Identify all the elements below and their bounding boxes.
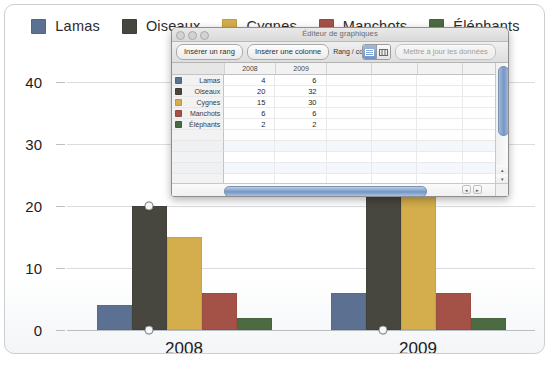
table-cell[interactable]: 6 xyxy=(224,108,275,119)
table-row-empty[interactable] xyxy=(172,141,508,152)
insert-row-button[interactable]: Insérer un rang xyxy=(176,44,243,60)
rows-grid-icon[interactable] xyxy=(363,45,376,59)
chart-data-editor-window[interactable]: Éditeur de graphiques Insérer un rang In… xyxy=(171,27,509,197)
table-cell[interactable] xyxy=(224,196,275,197)
table-row-empty[interactable] xyxy=(172,130,508,141)
scroll-up-arrow[interactable]: ▴ xyxy=(496,165,509,174)
editor-titlebar[interactable]: Éditeur de graphiques xyxy=(172,28,508,42)
table-cell[interactable] xyxy=(327,86,372,97)
table-cell[interactable] xyxy=(372,108,417,119)
table-cell[interactable]: 15 xyxy=(224,97,275,108)
selection-handle[interactable] xyxy=(145,326,154,335)
table-cell[interactable] xyxy=(275,141,326,152)
row-header[interactable] xyxy=(172,141,224,152)
row-header[interactable]: Manchots xyxy=(172,108,224,119)
vertical-scroll-thumb[interactable] xyxy=(498,66,509,136)
table-row-empty[interactable] xyxy=(172,163,508,174)
table-cell[interactable]: 2 xyxy=(224,119,275,130)
table-cell[interactable] xyxy=(372,86,417,97)
column-header[interactable] xyxy=(327,63,372,74)
table-cell[interactable] xyxy=(417,163,462,174)
table-cell[interactable] xyxy=(417,75,462,86)
row-header[interactable]: Éléphants xyxy=(172,119,224,130)
table-cell[interactable]: 32 xyxy=(275,86,326,97)
table-cell[interactable] xyxy=(224,163,275,174)
table-row-empty[interactable] xyxy=(172,196,508,197)
table-row-empty[interactable] xyxy=(172,152,508,163)
table-cell[interactable] xyxy=(327,108,372,119)
rows-columns-toggle[interactable] xyxy=(362,44,391,60)
bar[interactable] xyxy=(132,206,167,330)
table-cell[interactable] xyxy=(275,196,326,197)
bar[interactable] xyxy=(237,318,272,330)
scroll-down-arrow[interactable]: ▾ xyxy=(496,174,509,183)
bar[interactable] xyxy=(471,318,506,330)
table-cell[interactable]: 6 xyxy=(275,108,326,119)
bar[interactable] xyxy=(436,293,471,330)
table-cell[interactable] xyxy=(417,119,462,130)
row-header[interactable] xyxy=(172,130,224,141)
columns-grid-icon[interactable] xyxy=(376,45,390,59)
selection-handle[interactable] xyxy=(145,202,154,211)
table-cell[interactable] xyxy=(327,97,372,108)
table-cell[interactable] xyxy=(372,130,417,141)
table-cell[interactable] xyxy=(224,141,275,152)
column-header[interactable]: 2008 xyxy=(225,63,276,74)
row-header[interactable] xyxy=(172,196,224,197)
column-header[interactable] xyxy=(372,63,417,74)
vertical-scrollbar[interactable]: ▴ ▾ xyxy=(495,63,508,183)
table-cell[interactable] xyxy=(275,152,326,163)
scroll-right-arrow[interactable]: ▸ xyxy=(473,185,482,194)
bar[interactable] xyxy=(167,237,202,330)
column-header[interactable] xyxy=(418,63,463,74)
horizontal-scrollbar[interactable]: ◂ ▸ xyxy=(172,183,495,196)
row-header[interactable] xyxy=(172,163,224,174)
table-cell[interactable]: 30 xyxy=(275,97,326,108)
insert-column-button[interactable]: Insérer une colonne xyxy=(247,44,329,60)
table-cell[interactable] xyxy=(327,163,372,174)
table-cell[interactable] xyxy=(372,119,417,130)
table-cell[interactable] xyxy=(372,163,417,174)
data-rows[interactable]: Lamas46Oiseaux2032Cygnes1530Manchots66Él… xyxy=(172,75,508,197)
table-row[interactable]: Éléphants22 xyxy=(172,119,508,130)
table-cell[interactable] xyxy=(224,130,275,141)
table-cell[interactable] xyxy=(417,108,462,119)
table-row[interactable]: Oiseaux2032 xyxy=(172,86,508,97)
table-cell[interactable] xyxy=(327,196,372,197)
table-row[interactable]: Lamas46 xyxy=(172,75,508,86)
row-header[interactable]: Cygnes xyxy=(172,97,224,108)
table-cell[interactable] xyxy=(327,152,372,163)
update-data-button[interactable]: Mettre à jour les données xyxy=(395,44,496,60)
table-cell[interactable] xyxy=(417,141,462,152)
table-cell[interactable] xyxy=(372,75,417,86)
scroll-left-arrow[interactable]: ◂ xyxy=(462,185,471,194)
row-header[interactable]: Oiseaux xyxy=(172,86,224,97)
row-header[interactable] xyxy=(172,152,224,163)
table-cell[interactable]: 6 xyxy=(275,75,326,86)
table-cell[interactable] xyxy=(275,163,326,174)
row-header[interactable]: Lamas xyxy=(172,75,224,86)
table-cell[interactable] xyxy=(372,141,417,152)
table-cell[interactable] xyxy=(417,196,462,197)
bar[interactable] xyxy=(202,293,237,330)
table-cell[interactable] xyxy=(463,196,508,197)
table-cell[interactable] xyxy=(327,130,372,141)
table-cell[interactable] xyxy=(224,152,275,163)
table-cell[interactable]: 20 xyxy=(224,86,275,97)
horizontal-scroll-thumb[interactable] xyxy=(224,186,427,197)
data-sheet[interactable]: 20082009 Lamas46Oiseaux2032Cygnes1530Man… xyxy=(172,63,508,196)
table-cell[interactable] xyxy=(417,86,462,97)
table-cell[interactable] xyxy=(372,152,417,163)
table-row[interactable]: Manchots66 xyxy=(172,108,508,119)
table-cell[interactable] xyxy=(327,119,372,130)
table-cell[interactable] xyxy=(417,130,462,141)
table-cell[interactable]: 2 xyxy=(275,119,326,130)
column-header[interactable]: 2009 xyxy=(276,63,327,74)
table-cell[interactable] xyxy=(417,97,462,108)
bar[interactable] xyxy=(97,305,132,330)
selection-handle[interactable] xyxy=(379,326,388,335)
table-row[interactable]: Cygnes1530 xyxy=(172,97,508,108)
table-cell[interactable] xyxy=(372,97,417,108)
table-cell[interactable] xyxy=(327,141,372,152)
table-cell[interactable] xyxy=(275,130,326,141)
